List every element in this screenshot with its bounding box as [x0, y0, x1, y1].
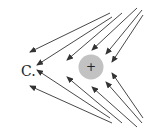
field-line-arrow — [30, 13, 110, 52]
electric-field-diagram: C. + — [0, 0, 152, 136]
field-line-arrow — [106, 82, 142, 123]
field-line-arrow — [92, 87, 137, 127]
plus-sign-icon: + — [86, 60, 96, 74]
field-line-arrow — [67, 77, 122, 123]
field-line-arrow — [112, 73, 143, 118]
field-line-arrow — [112, 15, 143, 62]
field-line-arrow — [37, 17, 112, 65]
field-line-arrow — [67, 13, 122, 60]
option-label: C. — [21, 63, 36, 79]
